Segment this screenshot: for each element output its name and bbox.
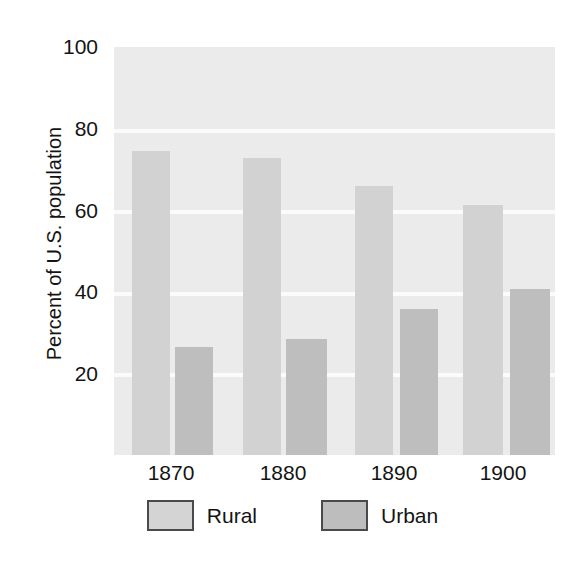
plot-area bbox=[114, 47, 555, 455]
legend-entry-rural: Rural bbox=[147, 500, 257, 531]
bar-rural-1880 bbox=[243, 158, 281, 455]
rural-swatch-icon bbox=[147, 500, 194, 531]
bar-urban-1870 bbox=[175, 347, 213, 455]
y-tick-label-60: 60 bbox=[40, 200, 98, 221]
y-tick-label-80: 80 bbox=[40, 118, 98, 139]
x-tick-label-1870: 1870 bbox=[126, 462, 216, 483]
urban-swatch-icon bbox=[321, 500, 368, 531]
x-tick-label-1900: 1900 bbox=[458, 462, 548, 483]
y-tick-label-100: 100 bbox=[40, 36, 98, 57]
legend-label-urban: Urban bbox=[381, 505, 438, 526]
x-tick-label-1880: 1880 bbox=[238, 462, 328, 483]
x-tick-label-1890: 1890 bbox=[349, 462, 439, 483]
bar-urban-1880 bbox=[286, 339, 327, 455]
legend-label-rural: Rural bbox=[207, 505, 257, 526]
bar-chart-figure: Percent of U.S. population 100 80 60 40 … bbox=[0, 0, 585, 566]
legend-entry-urban: Urban bbox=[321, 500, 438, 531]
bar-urban-1900 bbox=[510, 289, 550, 455]
bar-rural-1870 bbox=[132, 151, 170, 455]
y-tick-label-40: 40 bbox=[40, 281, 98, 302]
gridline-80 bbox=[114, 129, 555, 133]
bar-urban-1890 bbox=[400, 309, 438, 455]
bar-rural-1890 bbox=[355, 186, 393, 455]
y-tick-label-20: 20 bbox=[40, 363, 98, 384]
bar-rural-1900 bbox=[463, 205, 503, 455]
chart-legend: Rural Urban bbox=[0, 500, 585, 531]
